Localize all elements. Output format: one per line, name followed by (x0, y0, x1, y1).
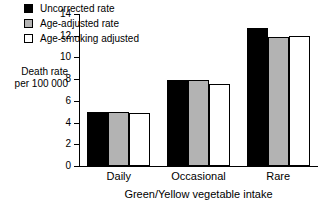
y-axis-tick-label: 8 (46, 74, 71, 84)
y-axis-tick (74, 101, 79, 102)
bar (87, 112, 108, 166)
y-axis-tick (74, 57, 79, 58)
x-axis-group-label: Rare (227, 170, 330, 182)
bar-group (167, 14, 230, 166)
bar-group (247, 14, 310, 166)
y-axis-tick-label: 10 (46, 52, 71, 62)
bar (247, 28, 268, 166)
y-axis-tick (74, 79, 79, 80)
legend-swatch-white (24, 34, 33, 43)
x-axis-title: Green/Yellow vegetable intake (79, 188, 318, 200)
y-axis-tick-label: 4 (46, 118, 71, 128)
legend-label: Age-adjusted rate (40, 18, 119, 29)
y-axis-tick (74, 144, 79, 145)
y-axis-tick (74, 123, 79, 124)
bar (209, 84, 230, 167)
legend-swatch-black (24, 4, 33, 13)
bar (129, 113, 150, 166)
legend-label: Age-smoking adjusted (40, 33, 139, 44)
legend-swatch-gray (24, 19, 33, 28)
bar-chart-figure: Death rate per 100 000 02468101214 Daily… (0, 0, 334, 205)
legend-label: Uncorrected rate (40, 3, 114, 14)
y-axis-tick-label: 2 (46, 139, 71, 149)
bar (188, 80, 209, 166)
bar (167, 80, 188, 166)
y-axis-tick (74, 166, 79, 167)
y-axis-tick-label: 6 (46, 96, 71, 106)
bar (289, 36, 310, 166)
bar (108, 112, 129, 166)
x-axis-spine (79, 166, 318, 167)
bar (268, 37, 289, 166)
y-axis-tick (74, 14, 79, 15)
